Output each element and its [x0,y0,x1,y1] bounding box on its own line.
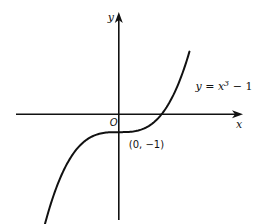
cubic-graph: y x O (0, −1) y = x3 − 1 [0,0,258,224]
point-annotation-intercept: (0, −1) [129,139,164,150]
y-axis-label: y [107,11,115,24]
curve-equation-label: y = x3 − 1 [194,79,252,93]
series-curve-cubic [28,52,189,224]
origin-label: O [110,117,118,128]
x-axis-label: x [236,118,243,131]
equation-suffix: − 1 [229,80,252,93]
equation-prefix: y = x [194,80,224,93]
